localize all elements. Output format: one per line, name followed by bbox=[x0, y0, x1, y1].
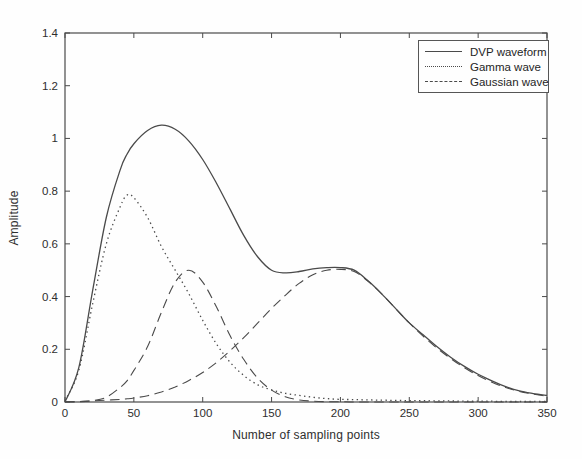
dotted-line-icon bbox=[425, 66, 462, 67]
y-tick-label: 1 bbox=[52, 132, 58, 144]
gaussian-wave-curve-1 bbox=[65, 270, 547, 402]
x-tick-label: 100 bbox=[193, 407, 212, 419]
y-tick-label: 0.2 bbox=[42, 343, 58, 355]
x-tick-label: 150 bbox=[262, 407, 281, 419]
y-tick-label: 1.4 bbox=[42, 27, 59, 39]
y-tick-label: 0.8 bbox=[42, 185, 58, 197]
dashed-line-icon bbox=[425, 81, 462, 82]
y-tick-label: 1.2 bbox=[42, 80, 58, 92]
x-axis-title: Number of sampling points bbox=[65, 428, 547, 442]
x-tick-label: 300 bbox=[469, 407, 488, 419]
dvp-decomposition-figure: 05010015020025030035000.20.40.60.811.21.… bbox=[0, 0, 582, 459]
gamma-wave-curve bbox=[65, 194, 547, 401]
legend: DVP waveform Gamma wave Gaussian wave bbox=[418, 40, 549, 93]
x-tick-label: 350 bbox=[537, 407, 556, 419]
dvp-waveform-curve bbox=[65, 125, 547, 402]
y-tick-label: 0 bbox=[52, 396, 58, 408]
x-tick-label: 200 bbox=[331, 407, 350, 419]
legend-item-gamma-wave: Gamma wave bbox=[425, 59, 544, 74]
x-tick-label: 0 bbox=[62, 407, 68, 419]
legend-label: Gaussian wave bbox=[470, 76, 549, 88]
x-tick-label: 50 bbox=[127, 407, 140, 419]
legend-item-dvp-waveform: DVP waveform bbox=[425, 44, 544, 59]
legend-label: DVP waveform bbox=[470, 46, 546, 58]
y-tick-label: 0.6 bbox=[42, 238, 58, 250]
gaussian-wave-curve-2 bbox=[65, 269, 547, 401]
y-tick-label: 0.4 bbox=[42, 291, 59, 303]
legend-label: Gamma wave bbox=[470, 61, 541, 73]
x-tick-label: 250 bbox=[400, 407, 419, 419]
legend-item-gaussian-wave: Gaussian wave bbox=[425, 74, 544, 89]
solid-line-icon bbox=[425, 51, 462, 52]
y-axis-title: Amplitude bbox=[7, 48, 21, 388]
